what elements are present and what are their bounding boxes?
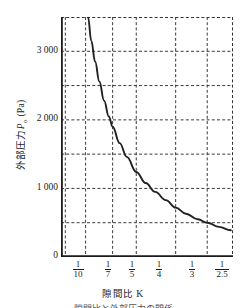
x-tick-numerator: 1	[105, 260, 112, 269]
x-tick-denominator: 10	[73, 269, 84, 279]
x-tick-label-1-2.5: 1 2.5	[207, 260, 237, 279]
figure-caption: 隙間比と外部圧力の関係	[0, 302, 246, 308]
x-tick-denominator: 4	[156, 269, 163, 279]
x-tick-label-1-10: 1 10	[63, 260, 93, 279]
y-tick-label-3000: 3 000	[18, 45, 58, 55]
chart-figure: 外部圧力Po (Pa) 3 000 2 000 1 000 0 1 10	[0, 0, 246, 308]
chart-canvas	[61, 17, 233, 257]
y-tick-label-0: 0	[18, 250, 58, 260]
x-tick-numerator: 1	[73, 260, 84, 269]
x-tick-denominator: 3	[189, 269, 196, 279]
data-curve	[88, 17, 231, 230]
y-tick-label-1000: 1 000	[18, 182, 58, 192]
x-tick-numerator: 1	[129, 260, 136, 269]
x-axis-title: 隙間比 K	[0, 286, 246, 300]
vertical-gridlines	[65, 17, 207, 257]
x-tick-denominator: 7	[105, 269, 112, 279]
x-tick-numerator: 1	[156, 260, 163, 269]
x-tick-denominator: 5	[129, 269, 136, 279]
x-tick-label-1-5: 1 5	[117, 260, 147, 279]
y-tick-label-2000: 2 000	[18, 113, 58, 123]
x-tick-label-1-4: 1 4	[144, 260, 174, 279]
x-tick-numerator: 1	[215, 260, 228, 269]
x-tick-numerator: 1	[189, 260, 196, 269]
x-tick-denominator: 2.5	[215, 269, 228, 279]
x-tick-label-1-3: 1 3	[177, 260, 207, 279]
plot-area	[61, 17, 233, 257]
